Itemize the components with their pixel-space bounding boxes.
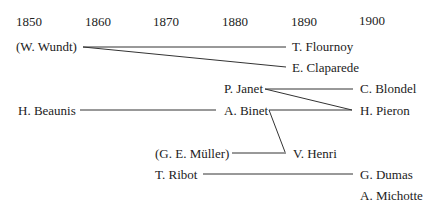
year-1890: 1890 [291, 15, 317, 29]
year-1900: 1900 [359, 14, 385, 28]
node-dumas: G. Dumas [360, 168, 413, 182]
node-flournoy: T. Flournoy [292, 40, 353, 54]
node-blondel: C. Blondel [360, 82, 416, 96]
node-janet: P. Janet [224, 82, 263, 96]
node-beaunis: H. Beaunis [18, 104, 76, 118]
node-claparede: E. Claparede [292, 61, 359, 75]
node-muller: (G. E. Müller) [155, 147, 229, 161]
line-binet-henri [269, 110, 285, 152]
node-michotte: A. Michotte [360, 189, 423, 203]
node-pieron: H. Pieron [360, 104, 410, 118]
line-wundt-claparede [83, 47, 286, 67]
line-janet-pieron [265, 89, 352, 110]
node-binet: A. Binet [224, 104, 268, 118]
year-1850: 1850 [16, 15, 42, 29]
year-1880: 1880 [222, 15, 248, 29]
node-henri: V. Henri [293, 147, 337, 161]
year-1860: 1860 [85, 15, 111, 29]
node-ribot: T. Ribot [155, 168, 197, 182]
year-1870: 1870 [153, 15, 179, 29]
node-wundt: (W. Wundt) [16, 40, 77, 54]
